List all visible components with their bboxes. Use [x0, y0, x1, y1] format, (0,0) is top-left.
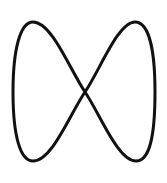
right-lobe [85, 22, 155, 161]
left-lobe [13, 22, 85, 161]
figure-eight-diagram [0, 0, 167, 183]
